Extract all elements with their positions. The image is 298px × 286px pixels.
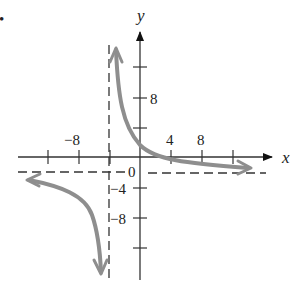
y-tick-label-neg4: −4 xyxy=(110,181,126,197)
graph: • y x −8 4 8 8 0 −4 −8 xyxy=(0,0,298,286)
y-axis-label: y xyxy=(135,6,145,25)
x-axis-label: x xyxy=(281,148,290,167)
curve-right-branch xyxy=(116,50,248,168)
x-tick-label-8: 8 xyxy=(197,132,205,148)
x-tick-label-4: 4 xyxy=(166,132,174,148)
x-tick-label-neg8: −8 xyxy=(64,132,80,148)
curve-left-branch xyxy=(29,180,101,272)
bullet: • xyxy=(0,11,4,27)
origin-label: 0 xyxy=(128,164,136,180)
y-tick-label-neg8: −8 xyxy=(110,211,126,227)
y-tick-label-8: 8 xyxy=(150,91,158,107)
